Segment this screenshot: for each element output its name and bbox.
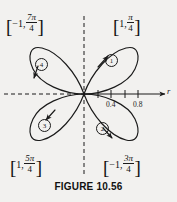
- tick-label-0-8: 0.8: [133, 100, 142, 109]
- petal-order-badge-2: 2: [96, 122, 109, 135]
- bracket-close-tr: ]: [134, 16, 140, 37]
- fraction-top-left-numerator: 7π: [26, 13, 37, 22]
- fraction-top-right-denominator: 4: [127, 22, 134, 33]
- petal-order-badge-4: 4: [35, 58, 48, 71]
- polar-label-bottom-left: [1,5π4]: [10, 154, 42, 177]
- fraction-top-left: 7π4: [26, 13, 37, 34]
- figure-container: 1 2 3 4 [−1,7π4] [1,π4] [1,5π4] [−1,3π4]…: [0, 0, 177, 202]
- bracket-close-bl: ]: [36, 157, 42, 178]
- fraction-bottom-right-numerator: 3π: [123, 154, 134, 163]
- fraction-bottom-left-denominator: 4: [24, 163, 35, 174]
- bracket-close-tl: ]: [37, 16, 43, 37]
- petal-order-badge-3-label: 3: [43, 122, 47, 130]
- polar-label-top-right: [1,π4]: [113, 13, 141, 36]
- fraction-bottom-right: 3π4: [123, 154, 134, 175]
- polar-plot-area: 1 2 3 4 [−1,7π4] [1,π4] [1,5π4] [−1,3π4]…: [0, 0, 177, 182]
- polar-label-bottom-right-r: −1,: [109, 159, 122, 170]
- petal-3-direction-arrow: [46, 110, 55, 120]
- fraction-bottom-left: 5π4: [24, 154, 35, 175]
- fraction-bottom-left-numerator: 5π: [24, 154, 35, 163]
- polar-label-top-left: [−1,7π4]: [6, 13, 44, 36]
- petal-order-badge-2-label: 2: [101, 125, 105, 133]
- tick-label-0-4: 0.4: [106, 100, 115, 109]
- petal-order-badge-3: 3: [38, 119, 51, 132]
- polar-label-top-left-r: −1,: [12, 18, 25, 29]
- petal-3-path: [30, 94, 84, 140]
- fraction-bottom-right-denominator: 4: [123, 163, 134, 174]
- fraction-top-right-numerator: π: [127, 13, 134, 22]
- petal-4-path: [30, 48, 84, 94]
- r-axis-label: r: [167, 86, 170, 96]
- petal-order-badge-4-label: 4: [40, 61, 44, 69]
- petal-order-badge-1: 1: [105, 54, 118, 67]
- polar-label-top-right-r: 1,: [119, 18, 127, 29]
- bracket-close-br: ]: [134, 157, 140, 178]
- fraction-top-right: π4: [127, 13, 134, 34]
- polar-label-bottom-right: [−1,3π4]: [103, 154, 141, 177]
- fraction-top-left-denominator: 4: [26, 22, 37, 33]
- petal-order-badge-1-label: 1: [110, 57, 114, 65]
- polar-label-bottom-left-r: 1,: [16, 159, 24, 170]
- figure-caption: FIGURE 10.56: [0, 181, 177, 192]
